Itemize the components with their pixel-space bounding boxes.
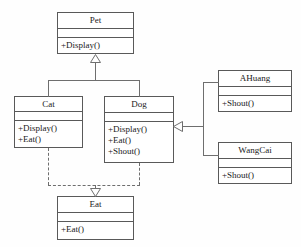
generalization-bus-pet <box>48 80 140 81</box>
class-box-eat[interactable]: Eat +Eat() <box>57 196 134 240</box>
uml-class-diagram: Pet +Display() Cat +Display() +Eat() Dog… <box>0 0 301 247</box>
realization-drop-cat <box>48 148 49 185</box>
class-box-pet[interactable]: Pet +Display() <box>57 12 134 54</box>
class-attributes-eat <box>58 213 133 222</box>
class-attributes-cat <box>15 112 82 121</box>
generalization-drop-cat <box>48 80 49 97</box>
operation-item: +Eat() <box>108 135 173 146</box>
class-operations-wangcai: +Shout() <box>219 168 291 183</box>
class-attributes-wangcai <box>219 159 291 168</box>
class-operations-dog: +Display() +Eat() +Shout() <box>105 122 173 162</box>
operation-item: +Shout() <box>222 170 291 181</box>
operation-item: +Eat() <box>18 134 82 145</box>
class-operations-cat: +Display() +Eat() <box>15 121 82 147</box>
realization-bus-eat <box>48 185 140 186</box>
operation-item: +Display() <box>18 123 82 134</box>
generalization-shaft-dog <box>182 126 204 127</box>
operation-item: +Shout() <box>222 98 291 109</box>
class-box-cat[interactable]: Cat +Display() +Eat() <box>14 96 83 148</box>
class-name-wangcai: WangCai <box>219 143 291 159</box>
realization-drop-dog <box>139 163 140 185</box>
generalization-drop-dog <box>139 80 140 97</box>
class-box-ahuang[interactable]: AHuang +Shout() <box>218 70 292 112</box>
generalization-branch-ahuang <box>203 82 219 83</box>
class-operations-ahuang: +Shout() <box>219 96 291 111</box>
operation-item: +Display() <box>61 40 133 51</box>
generalization-bus-dog <box>203 82 204 155</box>
class-name-dog: Dog <box>105 97 173 113</box>
operation-item: +Eat() <box>61 224 133 235</box>
class-name-pet: Pet <box>58 13 133 29</box>
operation-item: +Shout() <box>108 146 173 157</box>
class-attributes-pet <box>58 29 133 38</box>
class-operations-pet: +Display() <box>58 38 133 53</box>
class-box-dog[interactable]: Dog +Display() +Eat() +Shout() <box>104 96 174 163</box>
class-name-eat: Eat <box>58 197 133 213</box>
class-box-wangcai[interactable]: WangCai +Shout() <box>218 142 292 184</box>
class-name-ahuang: AHuang <box>219 71 291 87</box>
generalization-arrowhead-pet <box>90 54 101 63</box>
realization-arrowhead-eat <box>90 188 101 197</box>
class-attributes-dog <box>105 113 173 122</box>
operation-item: +Display() <box>108 124 173 135</box>
generalization-branch-wangcai <box>203 155 219 156</box>
class-name-cat: Cat <box>15 97 82 112</box>
class-attributes-ahuang <box>219 87 291 96</box>
generalization-arrowhead-dog <box>173 121 183 132</box>
generalization-shaft-pet <box>95 62 96 81</box>
class-operations-eat: +Eat() <box>58 222 133 239</box>
